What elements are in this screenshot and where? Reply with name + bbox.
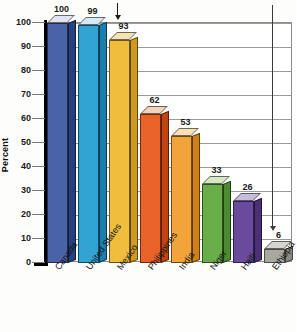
y-axis-tick-label: 30 — [5, 185, 31, 195]
bar-value-label: 62 — [135, 95, 175, 105]
bar-side-face — [99, 22, 107, 263]
bar: 62 — [140, 114, 160, 263]
y-axis-tick-label: 100 — [5, 17, 31, 27]
bar-chart: 1009080706050403020100 Percent 100999362… — [0, 0, 296, 332]
bar-front-face — [140, 114, 160, 263]
arrow-ethiopia-icon — [272, 5, 273, 227]
y-axis-tick-label: 0 — [5, 257, 31, 267]
bars-group: 1009993625333266 — [44, 22, 292, 263]
y-axis-tick-label: 90 — [5, 41, 31, 51]
bar-side-face — [130, 37, 138, 263]
bar-front-face — [78, 25, 98, 263]
bar: 100 — [47, 23, 67, 263]
bar-side-face — [192, 133, 200, 263]
bar-value-label: 33 — [197, 165, 237, 175]
bar-side-face — [68, 20, 76, 263]
bar: 99 — [78, 25, 98, 263]
y-axis-tick-label: 70 — [5, 89, 31, 99]
bar-value-label: 99 — [73, 6, 113, 16]
bar-value-label: 53 — [166, 117, 206, 127]
y-axis-tick-label: 20 — [5, 209, 31, 219]
y-axis-title: Percent — [0, 138, 10, 172]
y-axis-tick-label: 80 — [5, 65, 31, 75]
bar-front-face — [171, 136, 191, 263]
bar-value-label: 6 — [259, 230, 297, 240]
arrow-united-states-icon — [117, 3, 118, 16]
bar-front-face — [47, 23, 67, 263]
bar-value-label: 93 — [104, 21, 144, 31]
bar: 53 — [171, 136, 191, 263]
bar-value-label: 26 — [228, 182, 268, 192]
y-axis-tick-label: 60 — [5, 113, 31, 123]
y-axis-tick-label: 10 — [5, 233, 31, 243]
x-axis-labels: CanadaUnited StatesMexicoPhilippinesIndi… — [44, 266, 292, 332]
